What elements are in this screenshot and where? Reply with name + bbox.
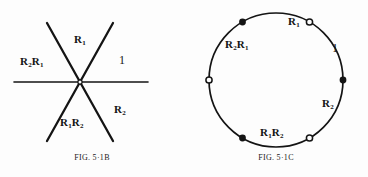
figure-page: R1 R2R1 1 R2 R1R2 FIG. 5·1B — [0, 0, 368, 177]
sector-label-r2: R2 — [114, 104, 126, 115]
vertex-bottom-right — [306, 135, 312, 141]
ray-upper-left — [47, 23, 80, 82]
sector-label-r1r2: R1R2 — [60, 117, 84, 128]
arc-label-r2r1: R2R1 — [225, 39, 249, 50]
figure-5-1b-graphic — [0, 0, 184, 177]
sector-label-identity: 1 — [119, 54, 125, 66]
arc-label-identity: 1 — [332, 42, 338, 54]
figure-5-1b: R1 R2R1 1 R2 R1R2 FIG. 5·1B — [0, 0, 184, 177]
vertex-right — [340, 77, 347, 84]
figure-5-1c-caption: FIG. 5·1C — [184, 152, 368, 162]
sector-label-r2r1: R2R1 — [20, 56, 44, 67]
vertex-bottom-left — [239, 135, 246, 142]
arc-label-r1: R1 — [288, 16, 300, 27]
vertex-top-left — [239, 19, 246, 26]
figure-5-1c: R1 R2R1 1 R2 R1R2 FIG. 5·1C — [184, 0, 368, 177]
ray-upper-right — [80, 23, 113, 82]
ray-lower-left — [47, 82, 80, 141]
figure-5-1b-caption: FIG. 5·1B — [0, 152, 184, 162]
vertex-top-right — [306, 19, 312, 25]
ray-lower-right — [80, 82, 113, 141]
center-node-icon — [78, 80, 82, 84]
vertex-left — [206, 77, 212, 83]
arc-label-r2: R2 — [322, 98, 334, 109]
arc-label-r1r2: R1R2 — [260, 127, 284, 138]
figure-5-1c-graphic — [184, 0, 368, 177]
sector-label-r1: R1 — [74, 34, 86, 45]
